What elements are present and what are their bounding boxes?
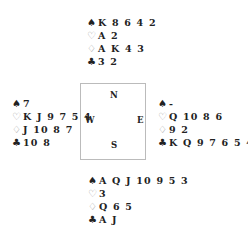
- spade-icon: ♠: [12, 97, 23, 110]
- spade-icon: ♠: [158, 97, 169, 110]
- heart-icon: ♡: [12, 110, 23, 123]
- diamond-icon: ♢: [87, 42, 98, 55]
- heart-icon: ♡: [158, 110, 169, 123]
- south-hand: ♠ A Q J 10 9 5 3 ♡ 3 ♢ Q 6 5 ♣ A J: [88, 174, 189, 226]
- compass-west-label: W: [85, 115, 95, 125]
- south-clubs-row: ♣ A J: [88, 213, 189, 226]
- north-clubs-row: ♣ 3 2: [87, 55, 157, 68]
- east-clubs: K Q 9 7 6 5 4: [169, 136, 248, 149]
- east-spades-row: ♠ -: [158, 97, 248, 110]
- diamond-icon: ♢: [88, 200, 99, 213]
- diamond-icon: ♢: [158, 123, 169, 136]
- west-spades: 7: [23, 97, 31, 110]
- compass-box: N W E S: [80, 83, 146, 160]
- south-spades-row: ♠ A Q J 10 9 5 3: [88, 174, 189, 187]
- compass-south-label: S: [111, 140, 117, 150]
- east-diamonds: 9 2: [169, 123, 189, 136]
- south-hearts-row: ♡ 3: [88, 187, 189, 200]
- club-icon: ♣: [88, 213, 99, 226]
- north-clubs: 3 2: [98, 55, 118, 68]
- east-clubs-row: ♣ K Q 9 7 6 5 4: [158, 136, 248, 149]
- club-icon: ♣: [12, 136, 23, 149]
- east-hearts: Q 10 8 6: [169, 110, 223, 123]
- east-diamonds-row: ♢ 9 2: [158, 123, 248, 136]
- south-diamonds: Q 6 5: [99, 200, 133, 213]
- compass-north-label: N: [110, 90, 118, 100]
- club-icon: ♣: [158, 136, 169, 149]
- east-spades: -: [169, 97, 174, 110]
- spade-icon: ♠: [88, 174, 99, 187]
- heart-icon: ♡: [87, 29, 98, 42]
- east-hand: ♠ - ♡ Q 10 8 6 ♢ 9 2 ♣ K Q 9 7 6 5 4: [158, 97, 248, 149]
- north-hand: ♠ K 8 6 4 2 ♡ A 2 ♢ A K 4 3 ♣ 3 2: [87, 16, 157, 68]
- north-diamonds-row: ♢ A K 4 3: [87, 42, 157, 55]
- north-spades: K 8 6 4 2: [98, 16, 157, 29]
- north-hearts-row: ♡ A 2: [87, 29, 157, 42]
- south-clubs: A J: [99, 213, 118, 226]
- club-icon: ♣: [87, 55, 98, 68]
- east-hearts-row: ♡ Q 10 8 6: [158, 110, 248, 123]
- west-clubs: 10 8: [23, 136, 51, 149]
- west-diamonds: J 10 8 7: [23, 123, 73, 136]
- compass-east-label: E: [137, 115, 143, 125]
- diamond-icon: ♢: [12, 123, 23, 136]
- north-diamonds: A K 4 3: [98, 42, 145, 55]
- south-diamonds-row: ♢ Q 6 5: [88, 200, 189, 213]
- south-hearts: 3: [99, 187, 107, 200]
- north-spades-row: ♠ K 8 6 4 2: [87, 16, 157, 29]
- spade-icon: ♠: [87, 16, 98, 29]
- north-hearts: A 2: [98, 29, 119, 42]
- heart-icon: ♡: [88, 187, 99, 200]
- south-spades: A Q J 10 9 5 3: [99, 174, 189, 187]
